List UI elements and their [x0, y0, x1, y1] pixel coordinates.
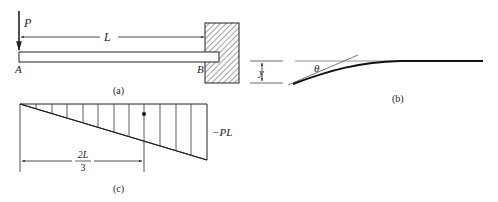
- angle-label: θ: [314, 62, 320, 74]
- caption-c: (c): [113, 183, 124, 195]
- beam: [19, 52, 219, 62]
- beam-deflection-diagram: P L A B (a) y θ (b): [0, 0, 498, 202]
- caption-b: (b): [392, 93, 404, 105]
- figure-b-deflection: y θ (b): [250, 55, 483, 105]
- tangent-line: [288, 55, 358, 85]
- caption-a: (a): [113, 85, 124, 97]
- moment-slope-line: [20, 104, 207, 160]
- figure-c-moment-diagram: −PL 2L 3 (c): [20, 104, 232, 195]
- end-a-label: A: [14, 63, 22, 75]
- load-label: P: [23, 16, 32, 30]
- centroid-dot: [142, 112, 146, 116]
- moment-label: −PL: [212, 126, 232, 138]
- end-b-label: B: [197, 63, 204, 75]
- moment-hatch-lines: [36, 104, 191, 155]
- length-label: L: [103, 30, 111, 44]
- distance-numerator: 2L: [78, 149, 89, 160]
- elastic-curve: [293, 61, 483, 84]
- distance-denominator: 3: [81, 162, 86, 173]
- figure-a-cantilever: P L A B (a): [14, 11, 239, 97]
- deflection-label: y: [258, 66, 264, 78]
